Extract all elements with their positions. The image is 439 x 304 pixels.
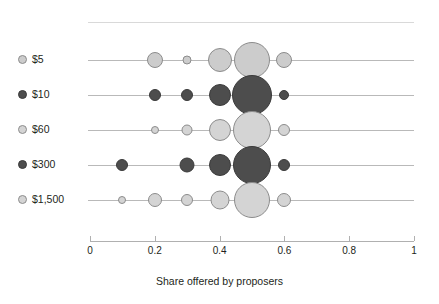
- x-axis-tick-label: 0.4: [200, 245, 240, 256]
- row-label-3: $60: [18, 123, 50, 135]
- legend-dot-icon: [18, 55, 27, 64]
- bubble: [151, 126, 159, 134]
- bubble: [147, 52, 163, 68]
- plot-area: $5$10$60$300$1,500 00.20.40.60.81 Share …: [0, 0, 439, 304]
- legend-dot-icon: [18, 125, 27, 134]
- row-label-text: $300: [32, 158, 55, 170]
- bubble: [116, 159, 128, 171]
- bubble: [209, 154, 231, 176]
- x-axis-tick-label: 0.8: [329, 245, 369, 256]
- row-label-text: $10: [32, 88, 50, 100]
- bubble: [149, 89, 161, 101]
- x-axis-tick: [349, 236, 350, 241]
- bubble: [232, 75, 272, 115]
- x-axis-tick: [284, 236, 285, 241]
- bubble: [209, 84, 231, 106]
- x-axis-tick: [414, 236, 415, 241]
- row-label-text: $5: [32, 53, 44, 65]
- x-axis-tick: [220, 236, 221, 241]
- x-axis-tick-label: 1: [394, 245, 434, 256]
- bubble: [233, 146, 271, 184]
- row-label-text: $60: [32, 123, 50, 135]
- bubble: [277, 193, 291, 207]
- bubble-chart: $5$10$60$300$1,500 00.20.40.60.81 Share …: [0, 0, 439, 304]
- top-rule: [88, 22, 414, 23]
- x-axis-line: [90, 241, 414, 242]
- bubble: [181, 194, 193, 206]
- row-label-4: $300: [18, 158, 55, 170]
- bubble: [276, 52, 292, 68]
- bubble: [278, 124, 290, 136]
- legend-dot-icon: [18, 90, 27, 99]
- row-label-1: $5: [18, 53, 44, 65]
- row-label-2: $10: [18, 88, 50, 100]
- bubble: [233, 111, 271, 149]
- bubble: [181, 89, 193, 101]
- bubble: [210, 191, 229, 210]
- row-label-text: $1,500: [32, 193, 64, 205]
- x-axis-tick-label: 0.2: [135, 245, 175, 256]
- legend-dot-icon: [18, 195, 27, 204]
- bubble: [278, 159, 290, 171]
- x-axis-tick: [90, 236, 91, 241]
- row-label-5: $1,500: [18, 193, 64, 205]
- bubble: [118, 196, 126, 204]
- bubble: [180, 158, 195, 173]
- x-axis-tick-label: 0.6: [264, 245, 304, 256]
- x-axis-tick-label: 0: [70, 245, 110, 256]
- x-axis-tick: [155, 236, 156, 241]
- bubble: [183, 56, 192, 65]
- bubble: [208, 48, 232, 72]
- bubble: [209, 119, 231, 141]
- bubble: [234, 182, 270, 218]
- bubble: [234, 42, 270, 78]
- bubble: [148, 193, 162, 207]
- legend-dot-icon: [18, 160, 27, 169]
- bubble: [279, 90, 289, 100]
- x-axis-title: Share offered by proposers: [0, 275, 439, 287]
- bubble: [182, 125, 193, 136]
